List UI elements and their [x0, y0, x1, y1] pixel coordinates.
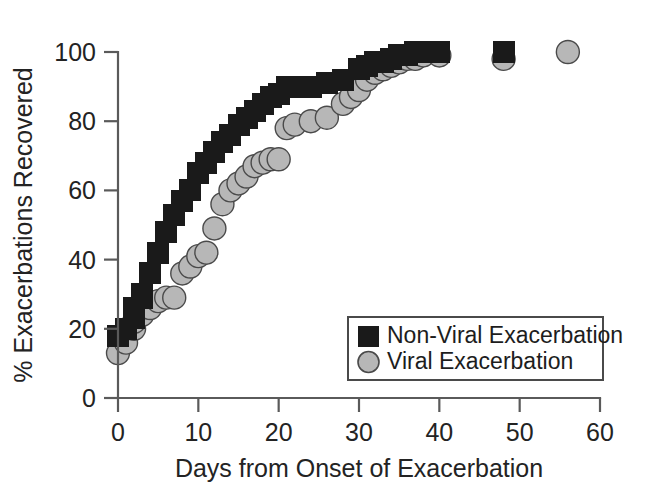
- y-tick-label: 60: [68, 176, 96, 204]
- data-point-circle: [556, 41, 579, 64]
- data-series-layer: [107, 41, 580, 365]
- y-axis-title: % Exacerbations Recovered: [9, 67, 37, 382]
- legend-swatch-viral: [358, 352, 379, 373]
- x-tick-label: 20: [265, 418, 293, 446]
- x-tick-label: 60: [586, 418, 614, 446]
- data-point-square: [131, 283, 153, 305]
- y-tick-label: 20: [68, 315, 96, 343]
- figure-container: 020406080100 0102030405060 Days from Ons…: [0, 0, 647, 491]
- data-point-circle: [163, 286, 186, 309]
- legend-label-non-viral: Non-Viral Exacerbation: [387, 322, 623, 348]
- x-tick-label: 30: [345, 418, 373, 446]
- x-axis-title: Days from Onset of Exacerbation: [175, 454, 543, 482]
- x-axis-ticks: 0102030405060: [111, 398, 614, 446]
- data-point-circle: [267, 148, 290, 171]
- y-tick-label: 80: [68, 107, 96, 135]
- y-tick-label: 100: [54, 38, 96, 66]
- data-point-square: [147, 242, 169, 264]
- legend-swatch-non-viral: [358, 326, 379, 347]
- data-point-square: [428, 41, 450, 63]
- x-tick-label: 40: [425, 418, 453, 446]
- data-point-square: [493, 41, 515, 63]
- data-point-circle: [203, 217, 226, 240]
- x-tick-label: 10: [184, 418, 212, 446]
- chart-legend: Non-Viral Exacerbation Viral Exacerbatio…: [348, 317, 623, 380]
- x-tick-label: 0: [111, 418, 125, 446]
- x-tick-label: 50: [506, 418, 534, 446]
- legend-label-viral: Viral Exacerbation: [387, 348, 573, 374]
- y-tick-label: 40: [68, 246, 96, 274]
- scatter-chart: 020406080100 0102030405060 Days from Ons…: [0, 0, 647, 491]
- y-tick-label: 0: [82, 384, 96, 412]
- data-point-circle: [195, 241, 218, 264]
- data-point-square: [139, 262, 161, 284]
